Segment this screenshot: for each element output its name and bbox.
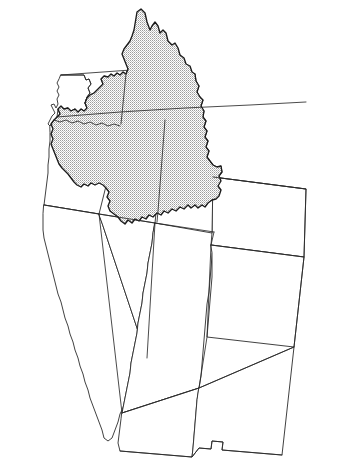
map-container xyxy=(0,0,341,463)
western-us-map xyxy=(0,0,341,463)
state-new-mexico xyxy=(192,347,294,457)
state-wyoming xyxy=(211,177,306,257)
state-colorado xyxy=(207,245,304,347)
